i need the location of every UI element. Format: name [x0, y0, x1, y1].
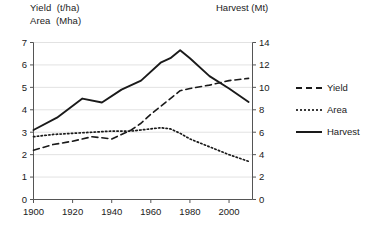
legend-item-yield: Yield	[296, 82, 366, 94]
legend-item-harvest: Harvest	[296, 126, 371, 138]
series-line-area	[34, 128, 249, 162]
x-axis-tick-label: 1940	[101, 206, 122, 217]
area-legend-key	[296, 109, 322, 111]
series-line-harvest	[34, 50, 249, 130]
left-axis-tick-label: 1	[22, 171, 27, 182]
x-axis-tick-label: 2000	[218, 206, 239, 217]
series-line-yield	[34, 78, 249, 150]
legend-item-area: Area	[296, 104, 366, 116]
x-axis-tick-label: 1920	[62, 206, 83, 217]
x-axis-tick-label: 1980	[179, 206, 200, 217]
right-axis-tick-label: 2	[259, 171, 264, 182]
left-axis-tick-label: 7	[22, 37, 27, 48]
plot-svg: 0123456702468101214190019201940196019802…	[0, 0, 371, 234]
harvest-legend-key	[296, 131, 322, 133]
right-axis-tick-label: 0	[259, 194, 264, 205]
right-axis-tick-label: 10	[259, 82, 270, 93]
chart-container: Yield (t/ha) Area (Mha) Harvest (Mt) 012…	[0, 0, 371, 234]
right-axis-tick-label: 14	[259, 37, 270, 48]
right-axis-tick-label: 12	[259, 59, 270, 70]
right-axis-tick-label: 6	[259, 127, 264, 138]
left-axis-tick-label: 0	[22, 194, 27, 205]
left-axis-tick-label: 6	[22, 59, 27, 70]
left-axis-tick-label: 5	[22, 82, 27, 93]
legend-label-harvest: Harvest	[327, 126, 360, 138]
left-axis-tick-label: 4	[22, 104, 27, 115]
right-axis-tick-label: 4	[259, 149, 264, 160]
legend-label-area: Area	[327, 104, 347, 116]
yield-legend-key	[296, 87, 322, 89]
x-axis-tick-label: 1960	[140, 206, 161, 217]
x-axis-tick-label: 1900	[23, 206, 44, 217]
legend-label-yield: Yield	[327, 82, 348, 94]
left-axis-tick-label: 2	[22, 149, 27, 160]
right-axis-tick-label: 8	[259, 104, 264, 115]
left-axis-tick-label: 3	[22, 127, 27, 138]
